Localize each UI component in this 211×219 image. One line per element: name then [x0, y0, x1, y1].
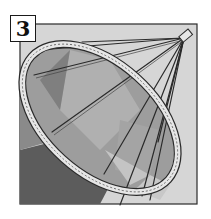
- step-number-label: 3: [10, 15, 36, 42]
